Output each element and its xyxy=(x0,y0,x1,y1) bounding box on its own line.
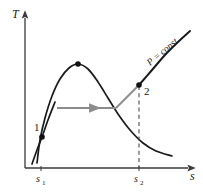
x-tick-labels: s 1 s 2 xyxy=(36,166,144,187)
process-rising-segment xyxy=(116,86,138,108)
tick-label-s2-base: s xyxy=(134,173,138,184)
saturation-dome-curve xyxy=(37,64,172,163)
state-2-label: 2 xyxy=(144,85,150,97)
tick-label-s2-sub: 2 xyxy=(140,179,144,187)
ts-diagram-canvas: T s s 1 s 2 xyxy=(0,0,203,193)
state-1-marker xyxy=(39,134,45,140)
axes-group: T s xyxy=(12,7,195,183)
state-2-marker xyxy=(136,82,142,88)
tick-label-s1-sub: 1 xyxy=(42,179,46,187)
process-path-1-to-2 xyxy=(57,86,138,108)
tick-s1: s 1 xyxy=(36,166,46,187)
x-axis-label: s xyxy=(190,169,195,183)
isobar-p-const-label: P = const. xyxy=(144,35,181,69)
critical-point-marker xyxy=(75,61,81,67)
ts-diagram-figure: T s s 1 s 2 xyxy=(0,0,203,193)
tick-label-s1-base: s xyxy=(36,173,40,184)
y-axis-label: T xyxy=(12,7,20,21)
state-1-label: 1 xyxy=(34,121,40,133)
isobar-through-state-1 xyxy=(32,102,55,164)
tick-s2: s 2 xyxy=(134,166,144,187)
